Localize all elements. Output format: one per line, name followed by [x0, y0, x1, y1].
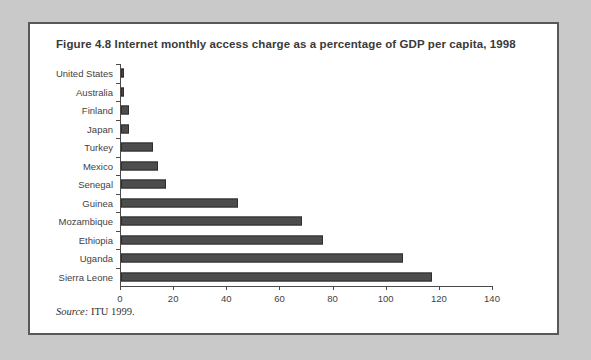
y-axis-tick [116, 101, 120, 102]
y-axis-tick [116, 249, 120, 250]
bar-row: Finland [120, 101, 492, 120]
x-axis-tick-label: 140 [484, 293, 500, 304]
category-label: Guinea [82, 197, 113, 208]
x-axis-tick [279, 286, 280, 290]
chart-plot-area: United StatesAustraliaFinlandJapanTurkey… [30, 62, 557, 292]
bar-row: Australia [120, 83, 492, 102]
x-axis-tick [173, 286, 174, 290]
x-axis-tick [439, 286, 440, 290]
figure-title: Figure 4.8 Internet monthly access charg… [56, 38, 516, 50]
y-axis-tick [116, 64, 120, 65]
y-axis-tick [116, 175, 120, 176]
bar [121, 161, 158, 170]
bar [121, 198, 238, 207]
y-axis-tick [116, 83, 120, 84]
y-axis-tick [116, 120, 120, 121]
source-label: Source: [56, 306, 88, 317]
category-label: Ethiopia [79, 234, 113, 245]
bar [121, 217, 302, 226]
x-axis-tick-label: 60 [274, 293, 285, 304]
y-axis-tick [116, 157, 120, 158]
bar [121, 272, 432, 281]
bar [121, 69, 124, 78]
category-label: Uganda [80, 253, 113, 264]
bar-row: Japan [120, 120, 492, 139]
bar-row: Guinea [120, 194, 492, 213]
x-axis-tick-label: 40 [221, 293, 232, 304]
bar-row: Turkey [120, 138, 492, 157]
x-axis-tick [492, 286, 493, 290]
category-label: Mexico [83, 160, 113, 171]
x-axis-tick [333, 286, 334, 290]
bar-row: Senegal [120, 175, 492, 194]
bar-row: Mexico [120, 157, 492, 176]
x-axis-tick-label: 120 [431, 293, 447, 304]
bar [121, 235, 323, 244]
bar-row: Mozambique [120, 212, 492, 231]
source-note: Source: ITU 1999. [56, 306, 135, 317]
y-axis-tick [116, 268, 120, 269]
category-label: Sierra Leone [59, 271, 113, 282]
y-axis-tick [116, 194, 120, 195]
x-axis-line [120, 286, 492, 287]
bar [121, 180, 166, 189]
bar [121, 87, 124, 96]
x-axis-tick [120, 286, 121, 290]
bar [121, 106, 129, 115]
category-label: Japan [87, 123, 113, 134]
figure-panel: Figure 4.8 Internet monthly access charg… [28, 22, 559, 335]
bar-chart: United StatesAustraliaFinlandJapanTurkey… [120, 64, 492, 286]
x-axis-tick-label: 20 [168, 293, 179, 304]
bar-row: Uganda [120, 249, 492, 268]
y-axis-tick [116, 138, 120, 139]
bar-row: Sierra Leone [120, 268, 492, 287]
category-label: Turkey [84, 142, 113, 153]
category-label: Finland [82, 105, 113, 116]
y-axis-tick [116, 212, 120, 213]
x-axis-tick-label: 0 [117, 293, 122, 304]
category-label: Australia [76, 86, 113, 97]
source-text: ITU 1999. [88, 306, 134, 317]
bar [121, 143, 153, 152]
x-axis-tick-label: 100 [378, 293, 394, 304]
bar-row: Ethiopia [120, 231, 492, 250]
x-axis-tick [386, 286, 387, 290]
bar [121, 124, 129, 133]
category-label: Senegal [78, 179, 113, 190]
y-axis-tick [116, 231, 120, 232]
x-axis-tick [226, 286, 227, 290]
category-label: Mozambique [59, 216, 113, 227]
bar-row: United States [120, 64, 492, 83]
bar [121, 254, 403, 263]
category-label: United States [56, 68, 113, 79]
x-axis-tick-label: 80 [327, 293, 338, 304]
